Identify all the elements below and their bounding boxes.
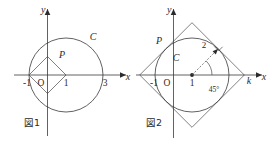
figure-1-caption: 図1	[24, 117, 40, 128]
figure-page: x y O -1 1 3 C P 図1	[0, 0, 269, 143]
figure-1-canvas: x y O -1 1 3 C P 図1	[0, 0, 134, 143]
figure-2-caption: 図2	[146, 117, 162, 128]
angle-arc-45-fig2	[206, 61, 212, 75]
angle-label-45-fig2: 45°	[209, 85, 220, 94]
x-axis-label-fig1: x	[125, 71, 131, 82]
circle-label-c-fig1: C	[90, 31, 97, 42]
circle-label-c-fig2: C	[173, 52, 180, 63]
polygon-label-p-fig2: P	[155, 35, 162, 46]
y-axis-arrow-fig2	[171, 9, 177, 15]
figure-2: 2 45° x y O -1 1 k P C 図2	[134, 0, 268, 143]
figure-2-canvas: 2 45° x y O -1 1 k P C 図2	[134, 0, 269, 143]
x-axis-label-fig2: x	[261, 71, 267, 82]
y-axis-arrow-fig1	[45, 9, 51, 15]
x-tick-minus1-fig2: -1	[150, 78, 158, 88]
x-tick-1-fig1: 1	[64, 78, 69, 88]
origin-label-fig2: O	[164, 78, 171, 88]
origin-label-fig1: O	[38, 78, 45, 88]
x-tick-3-fig1: 3	[103, 78, 108, 88]
x-tick-k-fig2: k	[247, 75, 252, 86]
y-axis-label-fig2: y	[166, 4, 172, 15]
x-tick-1-fig2: 1	[190, 78, 195, 88]
y-axis-label-fig1: y	[40, 4, 46, 15]
figure-1: x y O -1 1 3 C P 図1	[0, 0, 134, 143]
radius-label-fig2: 2	[202, 40, 207, 50]
x-tick-minus1-fig1: -1	[23, 78, 31, 88]
polygon-label-p-fig1: P	[58, 49, 65, 60]
